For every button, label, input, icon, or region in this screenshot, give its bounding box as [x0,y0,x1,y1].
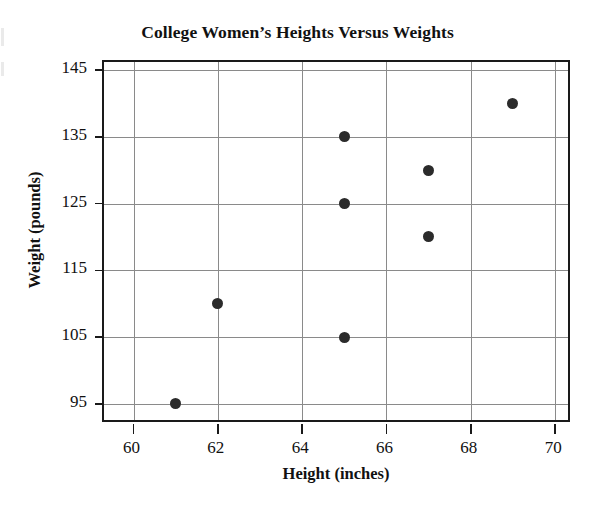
x-axis-tick [301,424,303,434]
gridline-horizontal [104,270,568,271]
data-point [423,231,434,242]
y-axis-tick-label: 105 [41,326,87,343]
y-axis-tick [95,69,104,71]
x-axis-tick-label: 62 [193,439,239,456]
gridline-vertical [302,62,303,420]
gridline-vertical [134,62,135,420]
gridline-vertical [386,62,387,420]
x-axis-tick [386,424,388,434]
x-axis-title: Height (inches) [102,464,570,484]
y-axis-title: Weight (pounds) [25,130,45,330]
gridline-horizontal [104,70,568,71]
y-axis-tick [95,270,104,272]
data-point [423,165,434,176]
y-axis-tick [95,136,104,138]
y-axis-tick-label: 115 [41,259,87,276]
page-title: College Women’s Heights Versus Weights [0,22,595,43]
y-axis-tick [95,403,104,405]
gridline-horizontal [104,137,568,138]
x-axis-tick-label: 60 [109,439,155,456]
gridline-horizontal [104,337,568,338]
data-point [339,131,350,142]
y-axis-tick-label: 95 [41,393,87,410]
x-axis-tick [470,424,472,434]
gridline-vertical [471,62,472,420]
gridline-vertical [555,62,556,420]
x-axis-tick-label: 68 [446,439,492,456]
data-point [507,98,518,109]
x-axis-tick [217,424,219,434]
y-axis-tick [95,336,104,338]
gridline-horizontal [104,204,568,205]
x-axis-tick-label: 70 [530,439,576,456]
gridline-vertical [218,62,219,420]
plot-inner [104,62,568,420]
data-point [212,298,223,309]
y-axis-tick-label: 135 [41,126,87,143]
scan-artifact [1,62,4,76]
y-axis-tick [95,203,104,205]
scatter-plot-figure: College Women’s Heights Versus Weights W… [0,0,595,514]
y-axis-tick-label: 145 [41,59,87,76]
data-point [170,398,181,409]
x-axis-tick [133,424,135,434]
x-axis-tick-label: 66 [361,439,407,456]
data-point [339,198,350,209]
x-axis-tick-label: 64 [277,439,323,456]
plot-area [102,60,570,422]
y-axis-tick-label: 125 [41,193,87,210]
data-point [339,332,350,343]
x-axis-tick [554,424,556,434]
